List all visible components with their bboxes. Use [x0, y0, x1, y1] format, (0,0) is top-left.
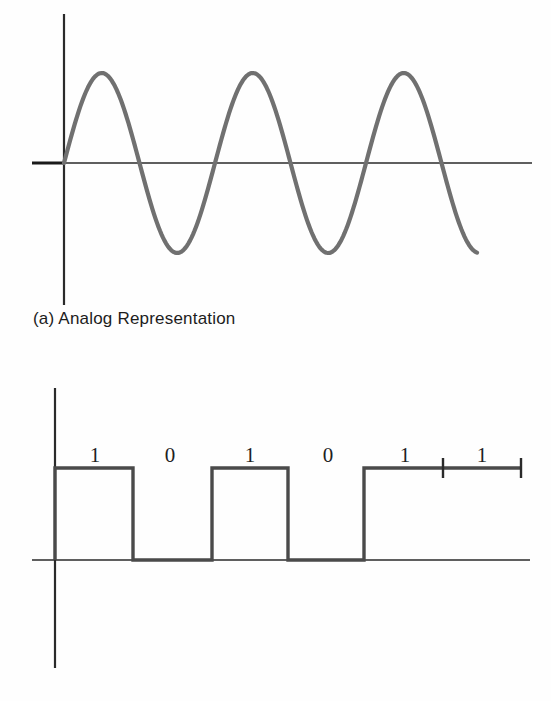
analog-panel: (a) Analog Representation [0, 0, 551, 350]
bit-label-5: 1 [477, 445, 488, 466]
digital-square-wave [55, 468, 521, 560]
analog-digital-waveform-figure: (a) Analog Representation 101011 (b) Dig… [0, 0, 551, 701]
analog-waveform-plot [0, 0, 551, 350]
bit-label-3: 0 [323, 445, 334, 466]
digital-waveform-plot [0, 350, 551, 701]
bit-label-4: 1 [400, 445, 411, 466]
bit-label-2: 1 [245, 445, 256, 466]
analog-caption: (a) Analog Representation [33, 309, 236, 329]
bit-label-0: 1 [90, 445, 101, 466]
bit-label-1: 0 [165, 445, 176, 466]
digital-panel: 101011 (b) Digital Representation [0, 350, 551, 701]
